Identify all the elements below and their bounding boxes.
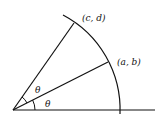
point-label-a-b: (a, b) [117, 57, 141, 67]
angle-arc-upper [22, 97, 27, 103]
theta-label-lower: θ [45, 99, 51, 109]
rotation-diagram: (c, d) (a, b) θ θ [0, 0, 162, 121]
circular-arc [63, 15, 120, 114]
angle-arc-lower [33, 100, 35, 110]
theta-label-upper: θ [35, 85, 41, 95]
point-label-c-d: (c, d) [82, 13, 106, 23]
